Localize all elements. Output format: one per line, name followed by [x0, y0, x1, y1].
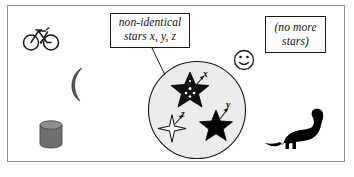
- star-y-letter: y: [226, 101, 230, 111]
- star-x-letter: x: [203, 70, 208, 80]
- no-more-stars-label: (no more stars): [265, 16, 326, 53]
- nomore-line-1: (no more: [266, 21, 325, 35]
- star-region-circle: [149, 62, 246, 159]
- star-z-letter: z: [181, 110, 185, 120]
- crescent-moon-icon: [72, 68, 82, 101]
- figure-scene: x y z non-identical stars x, y, z (no mo…: [0, 0, 354, 177]
- non-identical-stars-label: non-identical stars x, y, z: [110, 13, 190, 48]
- dinosaur-icon: [265, 109, 323, 149]
- label-line-2: stars x, y, z: [111, 30, 189, 44]
- label-line-1: non-identical: [111, 16, 189, 30]
- bicycle-icon: [24, 28, 59, 50]
- leader-line: [152, 48, 165, 75]
- nomore-line-2: stars): [266, 35, 325, 49]
- cylinder-can-icon: [40, 121, 62, 148]
- smiley-face-icon: [235, 51, 254, 70]
